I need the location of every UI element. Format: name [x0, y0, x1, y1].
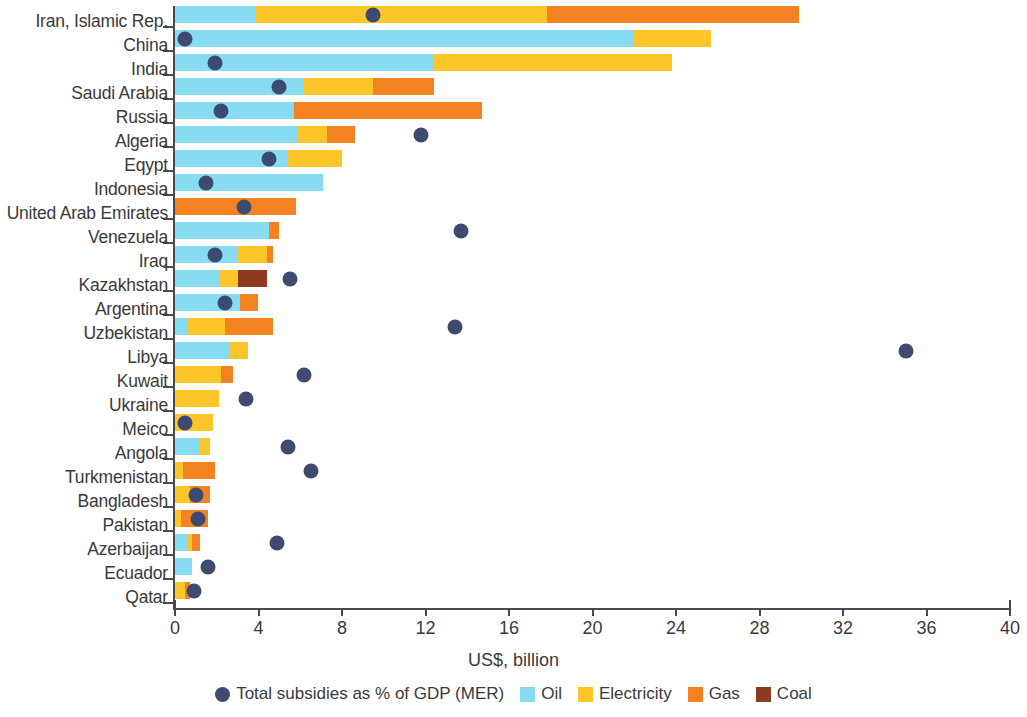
y-axis-tick: [163, 458, 174, 460]
stacked-bar: [175, 534, 1010, 551]
subsidy-percent-dot: [414, 127, 429, 142]
x-axis-tick-label: 0: [170, 618, 180, 639]
x-axis-tick: [842, 608, 844, 616]
x-axis-start-cap: [174, 600, 176, 609]
stacked-bar: [175, 54, 1010, 71]
bar-segment-electricity: [304, 78, 373, 95]
y-axis-tick: [163, 50, 174, 52]
bar-segment-gas: [183, 462, 214, 479]
subsidy-percent-dot: [207, 55, 222, 70]
bar-segment-oil: [175, 438, 200, 455]
x-axis-title: US$, billion: [0, 650, 1027, 671]
stacked-bar: [175, 222, 1010, 239]
stacked-bar: [175, 150, 1010, 167]
y-axis-tick: [163, 170, 174, 172]
stacked-bar: [175, 558, 1010, 575]
legend-item: Gas: [688, 684, 740, 704]
y-axis-label: Eqypt: [0, 156, 168, 174]
x-axis-tick-label: 28: [749, 618, 769, 639]
subsidy-percent-dot: [207, 247, 222, 262]
stacked-bar: [175, 78, 1010, 95]
subsidy-percent-dot: [186, 583, 201, 598]
bar-segment-electricity: [298, 126, 327, 143]
bar-segment-gas: [225, 318, 273, 335]
y-axis-tick: [163, 314, 174, 316]
legend-label: Total subsidies as % of GDP (MER): [236, 684, 504, 704]
subsidy-percent-dot: [272, 79, 287, 94]
bar-segment-electricity: [219, 270, 238, 287]
bar-segment-electricity: [238, 246, 267, 263]
y-axis-label: Saudi Arabia: [0, 84, 168, 102]
subsidy-percent-dot: [201, 559, 216, 574]
y-axis-tick: [163, 194, 174, 196]
bar-segment-electricity: [634, 30, 711, 47]
subsidy-percent-dot: [447, 319, 462, 334]
y-axis-label: Iraq: [0, 252, 168, 270]
bar-segment-coal: [238, 270, 267, 287]
plot-area: [175, 6, 1010, 608]
x-axis-tick-label: 4: [253, 618, 263, 639]
bar-segment-gas: [373, 78, 434, 95]
y-axis-label: Argentina: [0, 300, 168, 318]
y-axis-label: Qatar: [0, 588, 168, 606]
y-axis-label: China: [0, 36, 168, 54]
subsidy-percent-dot: [190, 511, 205, 526]
y-axis-label: Ukraine: [0, 396, 168, 414]
y-axis-label: Russia: [0, 108, 168, 126]
y-axis-tick: [163, 602, 174, 604]
stacked-bar: [175, 294, 1010, 311]
legend-swatch-square-icon: [756, 687, 771, 702]
subsidy-percent-dot: [238, 391, 253, 406]
subsidy-percent-dot: [236, 199, 251, 214]
y-axis-tick: [163, 218, 174, 220]
chart-legend: Total subsidies as % of GDP (MER)OilElec…: [0, 684, 1027, 704]
bar-segment-gas: [192, 534, 200, 551]
bar-segment-oil: [175, 270, 219, 287]
x-axis-tick-label: 16: [499, 618, 519, 639]
bar-segment-electricity: [256, 6, 546, 23]
subsidy-percent-dot: [188, 487, 203, 502]
x-axis-tick: [174, 608, 176, 616]
y-axis-label: Meico: [0, 420, 168, 438]
y-axis-tick: [163, 26, 174, 28]
bar-segment-oil: [175, 558, 192, 575]
y-axis-label: India: [0, 60, 168, 78]
y-axis-tick: [163, 362, 174, 364]
stacked-bar: [175, 390, 1010, 407]
subsidy-percent-dot: [280, 439, 295, 454]
y-axis-label: Indonesia: [0, 180, 168, 198]
stacked-bar: [175, 486, 1010, 503]
subsidy-percent-dot: [898, 343, 913, 358]
y-axis-label: Turkmenistan: [0, 468, 168, 486]
stacked-bar: [175, 510, 1010, 527]
bar-segment-electricity: [229, 342, 248, 359]
y-axis-tick: [163, 578, 174, 580]
y-axis-tick: [163, 338, 174, 340]
y-axis-tick: [163, 290, 174, 292]
legend-item: Electricity: [578, 684, 672, 704]
y-axis-label: Ecuador: [0, 564, 168, 582]
stacked-bar: [175, 414, 1010, 431]
subsidy-percent-dot: [178, 415, 193, 430]
bar-segment-gas: [547, 6, 800, 23]
subsidy-percent-dot: [218, 295, 233, 310]
y-axis-tick: [163, 122, 174, 124]
stacked-bar: [175, 462, 1010, 479]
x-axis-tick-label: 12: [415, 618, 435, 639]
y-axis-tick: [163, 530, 174, 532]
y-axis-label: Azerbaijan: [0, 540, 168, 558]
bar-segment-electricity: [175, 582, 185, 599]
bar-segment-oil: [175, 342, 229, 359]
subsidy-percent-dot: [270, 535, 285, 550]
bar-segment-oil: [175, 534, 188, 551]
x-axis-tick: [675, 608, 677, 616]
y-axis-label: Algeria: [0, 132, 168, 150]
x-axis-tick-label: 40: [1000, 618, 1020, 639]
y-axis-label: Pakistan: [0, 516, 168, 534]
legend-label: Gas: [709, 684, 740, 704]
stacked-bar: [175, 30, 1010, 47]
subsidy-percent-dot: [297, 367, 312, 382]
bar-segment-gas: [294, 102, 482, 119]
bar-segment-oil: [175, 102, 294, 119]
stacked-bar: [175, 6, 1010, 23]
